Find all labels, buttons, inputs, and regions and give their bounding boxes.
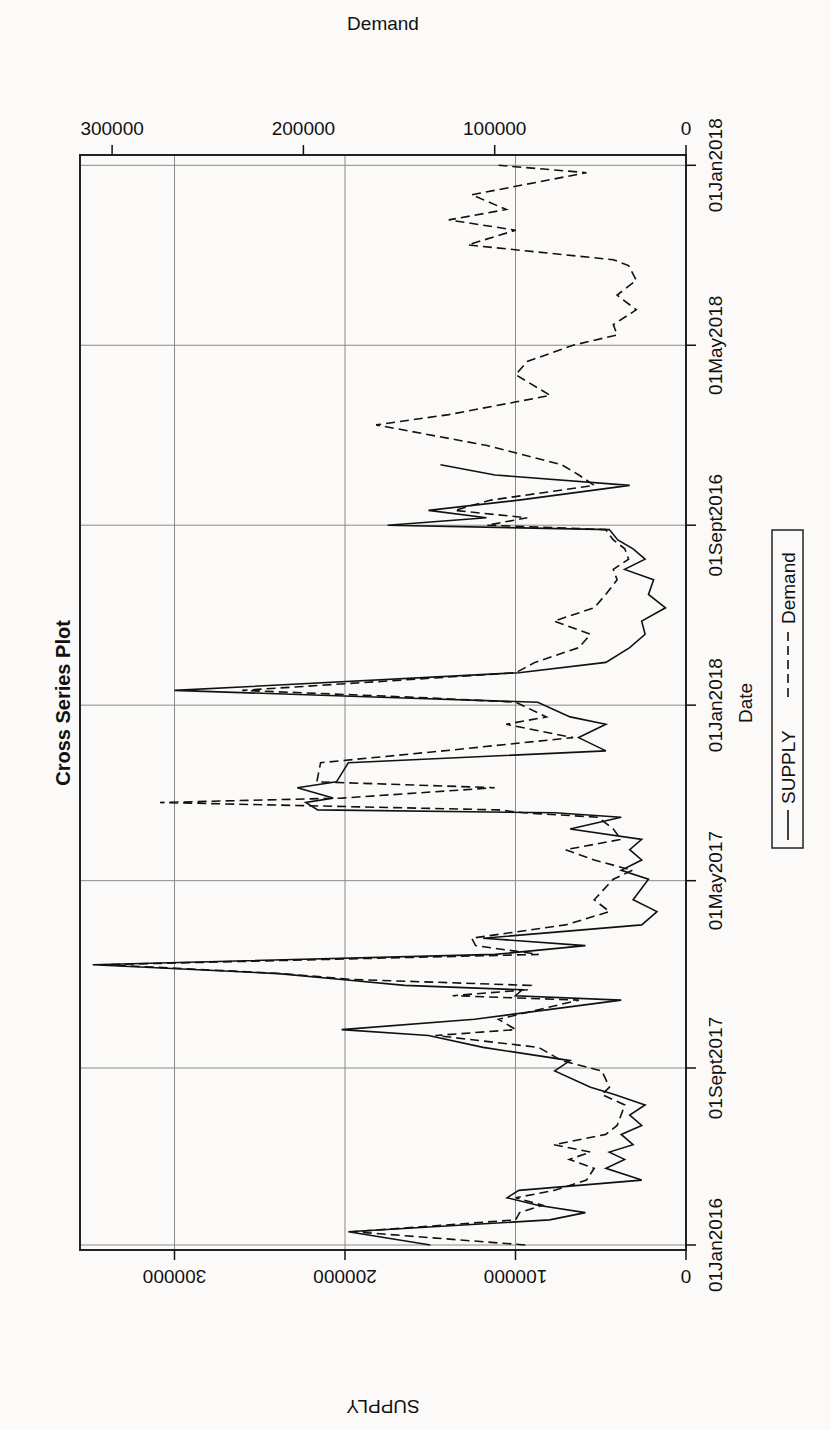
legend-supply-label: SUPPLY xyxy=(778,730,799,804)
y-right-tick-label: 200000 xyxy=(272,118,335,139)
y-right-tick-label: 100000 xyxy=(463,118,526,139)
plot-area-frame xyxy=(80,155,686,1250)
x-tick-label: 01Jan2018 xyxy=(705,658,726,752)
x-tick-label: 01Sept2016 xyxy=(705,474,726,577)
y-right-tick-label: 300000 xyxy=(80,118,143,139)
x-tick-label: 01May2017 xyxy=(705,831,726,930)
y-right-tick-label: 0 xyxy=(681,118,692,139)
y-axis-left: 0100000200000300000 xyxy=(143,1250,691,1287)
x-tick-label: 01Jan2018 xyxy=(705,118,726,212)
legend-demand-label: Demand xyxy=(778,552,799,624)
y-axis-right: 0100000200000300000 xyxy=(80,118,691,155)
y-left-tick-label: 300000 xyxy=(143,1266,206,1287)
y-left-tick-label: 100000 xyxy=(484,1266,547,1287)
gridlines xyxy=(80,155,686,1250)
chart-canvas: 01Jan201601Sept201701May201701Jan201801S… xyxy=(0,0,831,1430)
x-tick-label: 01Sept2017 xyxy=(705,1017,726,1120)
y-axis-left-label: SUPPLY xyxy=(346,1396,420,1417)
x-tick-label: 01May2018 xyxy=(705,296,726,395)
y-axis-right-label: Demand xyxy=(347,13,419,34)
y-left-tick-label: 200000 xyxy=(313,1266,376,1287)
x-tick-label: 01Jan2016 xyxy=(705,1198,726,1292)
cross-series-chart: 01Jan201601Sept201701May201701Jan201801S… xyxy=(0,0,831,1430)
legend: SUPPLY Demand xyxy=(772,530,803,848)
x-axis: 01Jan201601Sept201701May201701Jan201801S… xyxy=(686,118,726,1292)
scanned-page: 01Jan201601Sept201701May201701Jan201801S… xyxy=(0,0,831,1430)
y-left-tick-label: 0 xyxy=(681,1266,692,1287)
chart-title: Cross Series Plot xyxy=(52,620,74,786)
x-axis-label: Date xyxy=(735,683,756,723)
